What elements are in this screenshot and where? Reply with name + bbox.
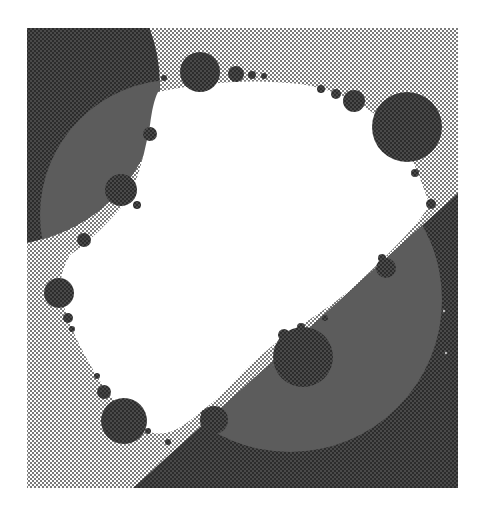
boundary-circle: [378, 254, 386, 262]
boundary-circle: [143, 127, 157, 141]
boundary-circle: [180, 52, 220, 92]
boundary-circle: [376, 258, 396, 278]
fractal-figure: [0, 0, 485, 518]
boundary-circle: [322, 315, 328, 321]
boundary-circle: [97, 385, 111, 399]
boundary-circle: [94, 373, 100, 379]
boundary-circle: [317, 85, 325, 93]
boundary-circle: [69, 326, 75, 332]
boundary-circle: [105, 174, 137, 206]
frame-group: [0, 0, 458, 488]
boundary-circle: [228, 66, 244, 82]
boundary-circle: [165, 439, 171, 445]
boundary-circle: [133, 201, 141, 209]
boundary-circle: [343, 90, 365, 112]
boundary-circle: [297, 323, 305, 331]
boundary-circle: [145, 428, 151, 434]
boundary-circle: [63, 313, 73, 323]
boundary-circle: [44, 278, 74, 308]
sparkle-dot: [443, 310, 445, 312]
boundary-circle: [201, 410, 209, 418]
sparkle-dot: [445, 352, 447, 354]
boundary-circle: [261, 73, 267, 79]
boundary-circle: [278, 329, 290, 341]
boundary-circle: [161, 75, 167, 81]
boundary-circle: [331, 89, 341, 99]
limit-set-canvas: [0, 0, 485, 518]
boundary-circle: [101, 398, 147, 444]
boundary-circle: [77, 233, 91, 247]
boundary-circle: [248, 71, 256, 79]
boundary-circle: [372, 92, 442, 162]
boundary-circle: [426, 199, 436, 209]
boundary-circle: [411, 169, 419, 177]
